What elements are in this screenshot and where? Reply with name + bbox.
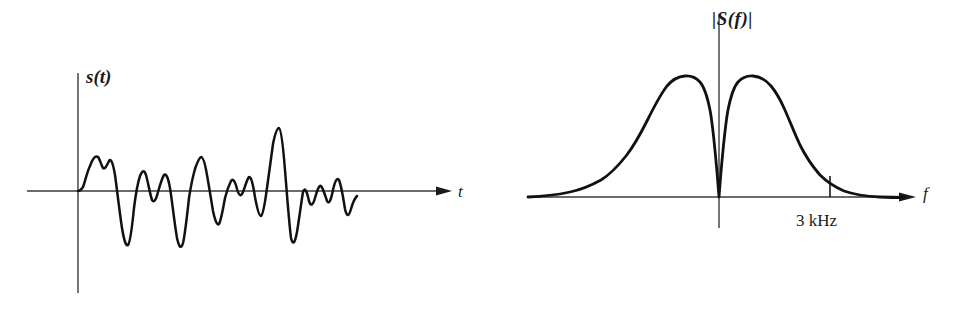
time-axis-horizontal-label: t (458, 183, 463, 200)
time-axis-vertical-label: s(t) (86, 67, 111, 86)
time-domain-plot (0, 0, 480, 314)
frequency-domain-panel: |S(f)| f 3 kHz (480, 0, 960, 314)
three-khz-tick-label: 3 kHz (796, 212, 837, 229)
magnitude-spectrum-plot (480, 0, 960, 314)
freq-axis-horizontal-label: f (923, 185, 928, 202)
time-domain-panel: s(t) t (0, 0, 480, 314)
waveform-trace (78, 128, 357, 247)
spectrum-curve (528, 76, 904, 198)
freq-axis-vertical-label: |S(f)| (712, 9, 753, 28)
figure-root: s(t) t |S(f)| f 3 kHz (0, 0, 960, 314)
